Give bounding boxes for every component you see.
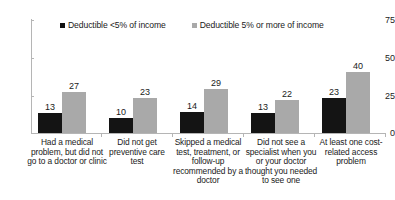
bar-value-dark-0: 13 [35, 102, 65, 112]
bar-gray-2 [204, 89, 228, 133]
y-tick-mark-0 [31, 133, 34, 134]
bar-value-dark-3: 13 [248, 102, 278, 112]
x-tick-mark-2 [172, 133, 173, 137]
x-tick-mark-3 [243, 133, 244, 137]
bar-value-gray-4: 40 [343, 61, 373, 71]
bar-dark-0 [38, 113, 62, 133]
x-tick-mark-5 [385, 133, 386, 137]
x-tick-mark-4 [314, 133, 315, 137]
plot-area: 13 27 10 23 14 29 13 22 23 40 [31, 19, 386, 133]
bar-value-gray-2: 29 [201, 78, 231, 88]
category-label-3: Did not see a specialist when you or you… [242, 138, 320, 186]
category-label-1: Did not get preventive care test [104, 138, 170, 167]
bar-group-4: 23 40 [315, 19, 385, 133]
bar-gray-4 [346, 72, 370, 133]
bar-value-dark-1: 10 [106, 107, 136, 117]
bar-dark-2 [180, 112, 204, 133]
bar-gray-0 [62, 92, 86, 133]
category-label-0: Had a medical problem, but did not go to… [26, 138, 108, 167]
bar-value-gray-0: 27 [59, 81, 89, 91]
category-label-4: At least one cost-related access problem [318, 138, 384, 167]
bar-dark-1 [109, 118, 133, 133]
bar-gray-3 [275, 100, 299, 133]
x-axis-line [31, 133, 386, 134]
bar-group-0: 13 27 [31, 19, 101, 133]
x-tick-mark-1 [101, 133, 102, 137]
bar-value-dark-4: 23 [319, 87, 349, 97]
bar-chart: Deductible <5% of income Deductible 5% o… [0, 0, 395, 200]
bar-group-2: 14 29 [173, 19, 243, 133]
category-label-2: Skipped a medical test, treatment, or fo… [168, 138, 248, 186]
bar-dark-4 [322, 98, 346, 133]
bar-dark-3 [251, 113, 275, 133]
bar-value-gray-3: 22 [272, 89, 302, 99]
bar-value-gray-1: 23 [130, 87, 160, 97]
bar-group-1: 10 23 [102, 19, 172, 133]
bar-group-3: 13 22 [244, 19, 314, 133]
bar-value-dark-2: 14 [177, 101, 207, 111]
bar-gray-1 [133, 98, 157, 133]
